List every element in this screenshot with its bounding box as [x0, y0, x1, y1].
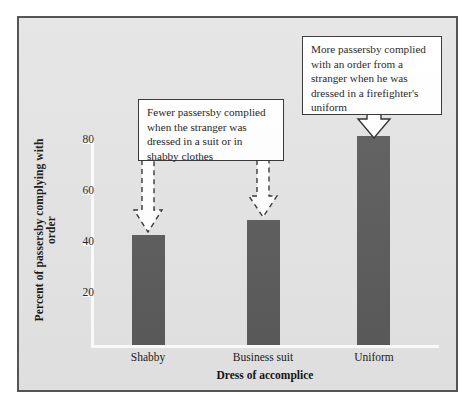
- y-tick-label-60: 60: [54, 184, 94, 196]
- solid-arrow-to-uniform: [354, 114, 396, 140]
- callout-right: More passersby complied with an order fr…: [302, 36, 442, 115]
- x-axis-title: Dress of accomplice: [91, 369, 439, 381]
- callout-left: Fewer passersby complied when the strang…: [138, 99, 284, 161]
- callout-right-text: More passersby complied with an order fr…: [311, 43, 426, 113]
- y-tick-label-20: 20: [54, 286, 94, 298]
- x-axis-line: [91, 345, 439, 348]
- y-tick-label-80: 80: [54, 133, 94, 145]
- plot-area: 80 60 40 20 Percent of passersby complyi…: [19, 18, 460, 394]
- dashed-arrow-to-business-suit: [244, 160, 284, 224]
- bar-label-business: Business suit: [208, 351, 318, 363]
- callout-left-text: Fewer passersby complied when the strang…: [147, 106, 266, 162]
- y-tick-label-40: 40: [54, 235, 94, 247]
- bar-business: [247, 220, 280, 345]
- y-axis-title: Percent of passersby complying with orde…: [33, 125, 57, 335]
- bar-label-uniform: Uniform: [319, 351, 429, 363]
- figure-frame: 80 60 40 20 Percent of passersby complyi…: [17, 16, 458, 392]
- dashed-arrow-to-shabby: [129, 160, 169, 240]
- bar-shabby: [132, 235, 165, 345]
- bar-uniform: [357, 136, 390, 345]
- bar-label-shabby: Shabby: [93, 351, 203, 363]
